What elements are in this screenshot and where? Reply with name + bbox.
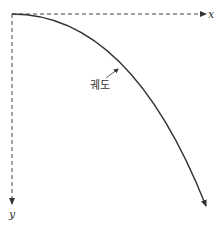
label-pointer-arrow — [106, 69, 118, 78]
trajectory-diagram: x y 궤도 — [0, 0, 222, 230]
trajectory-curve — [12, 14, 206, 206]
x-axis-label: x — [208, 8, 215, 21]
trajectory-label: 궤도 — [90, 79, 110, 92]
y-axis-label: y — [8, 208, 16, 221]
